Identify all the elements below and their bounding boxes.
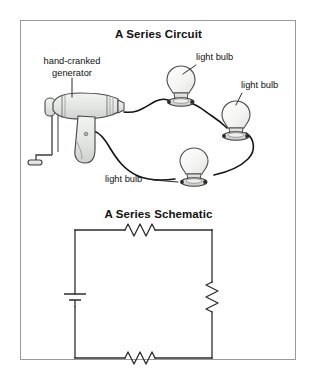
panel-title-series-circuit: A Series Circuit [0,28,317,40]
label-generator-line2: generator [52,68,92,78]
panel-title-series-schematic: A Series Schematic [0,208,317,220]
label-light-bulb-bottom: light bulb [105,174,142,186]
label-generator-line1: hand-cranked [44,56,101,66]
label-hand-cranked-generator: hand-cranked generator [24,56,120,79]
label-light-bulb-right: light bulb [241,80,278,92]
label-light-bulb-top: light bulb [196,52,233,64]
